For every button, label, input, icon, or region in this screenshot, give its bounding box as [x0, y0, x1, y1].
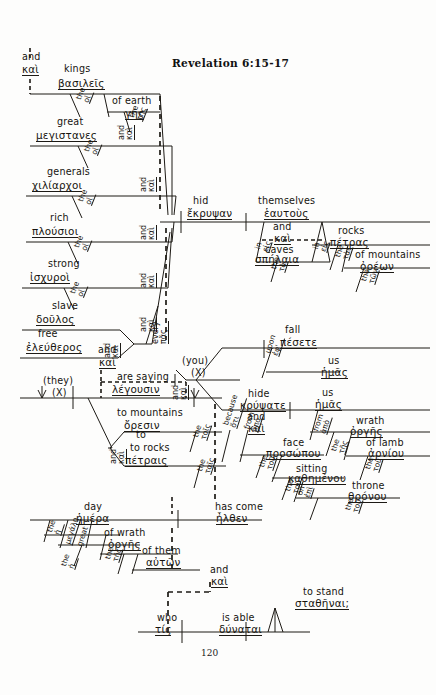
rocks-preposition: in εἰς — [312, 237, 331, 253]
mountains-gen-en: of mountains — [355, 250, 420, 260]
day-article: the ἡ — [46, 519, 65, 536]
slave-en: slave — [52, 301, 78, 311]
verb-isable-en: is able — [222, 613, 255, 623]
of-them-en: of them — [142, 546, 181, 556]
subject-who-el: τίς — [155, 624, 171, 636]
page-number: 120 — [201, 648, 218, 658]
generals-article: the οἱ — [77, 188, 97, 206]
verb-isable-el: δύναται — [219, 624, 262, 636]
of-wrath-en: of wrath — [104, 528, 145, 538]
verb-fall-el: πέσετε — [280, 337, 317, 349]
verb-fall-en: fall — [285, 325, 300, 335]
conj-series-1: and καὶ — [118, 125, 135, 140]
on-throne-preposition: on ἐπὶ — [296, 483, 315, 499]
us-2-en: us — [322, 388, 333, 398]
conj-caves-en: and — [273, 222, 292, 232]
us-1-en: us — [328, 356, 339, 366]
subject-they-en: (they) — [43, 376, 73, 386]
day-great-article: the ἡ — [60, 553, 79, 570]
to-mountains-en: to mountains — [117, 408, 183, 418]
subject-who-en: who — [157, 613, 177, 623]
generals-el: χιλίαρχοι — [32, 180, 82, 192]
great-article: the οἱ — [83, 138, 103, 156]
verb-hascome-en: has come — [215, 502, 263, 512]
us-2-el: ἡμᾶς — [315, 399, 342, 411]
free-el: ἐλεύθερος — [26, 342, 82, 354]
subject-they-ellipsis: (X) — [52, 388, 67, 398]
day-el: ἡμέρα — [76, 513, 109, 525]
conj-to-rocks: and καὶ — [110, 449, 127, 464]
verb-saying-en: are saying — [117, 372, 169, 382]
of-them-el: αὐτῶν — [146, 557, 181, 569]
great-en: great — [57, 117, 83, 127]
strong-article: the οἱ — [69, 280, 89, 298]
conj-series-4: and καὶ — [140, 273, 157, 288]
generals-en: generals — [47, 167, 90, 177]
object-themselves-en: themselves — [258, 196, 315, 206]
conj-saying-en: and — [98, 345, 117, 355]
wrath-article: the τῆς — [330, 437, 350, 455]
subject-you-en: (you) — [182, 356, 208, 366]
us-1-el: ἡμᾶς — [321, 367, 348, 379]
rich-el: πλούσιοι — [32, 226, 78, 238]
to-rocks-article: the ταῖς — [196, 454, 217, 475]
infinitive-tostand-el: σταθῆναι; — [295, 598, 349, 610]
verb-hascome-el: ἦλθεν — [216, 513, 248, 525]
page-title: Revelation 6:15-17 — [172, 57, 289, 69]
diagram-page: Revelation 6:15-17 — [0, 0, 436, 695]
slave-el: δοῦλος — [36, 314, 75, 326]
conj-series-5: and καὶ — [140, 317, 157, 332]
strong-el: ἰσχυροὶ — [30, 272, 70, 284]
conj-top-el: καὶ — [22, 64, 39, 76]
verb-hide-en: hide — [248, 389, 270, 399]
subject-you-ellipsis: (X) — [191, 368, 206, 378]
conj-fall: and καὶ — [172, 385, 189, 400]
infinitive-tostand-en: to stand — [303, 587, 344, 597]
rocks-en: rocks — [338, 226, 364, 236]
strong-en: strong — [48, 259, 80, 269]
caves-preposition: in εἰς — [254, 237, 273, 253]
conj-series-3: and καὶ — [140, 225, 157, 240]
verb-hid-el: ἔκρυψαν — [187, 208, 232, 220]
rich-article: the οἱ — [73, 234, 93, 252]
to-mountains-article: the τοῖς — [192, 421, 212, 441]
conj-bottom-en: and — [210, 565, 229, 575]
verb-hid-en: hid — [193, 196, 208, 206]
to-rocks-en: to rocks — [130, 443, 170, 453]
kings-en: kings — [64, 64, 90, 74]
conj-series-2: and καὶ — [140, 177, 157, 192]
free-en: free — [38, 329, 58, 339]
day-en: day — [84, 502, 102, 512]
from-wrath-preposition: from ἀπὸ — [312, 413, 333, 435]
to-rocks-el: πέτραις — [125, 455, 168, 467]
object-themselves-el: ἑαυτοὺς — [264, 208, 309, 220]
conj-saying-el: καὶ — [99, 357, 116, 369]
conj-top-en: and — [22, 52, 41, 62]
verb-saying-el: λέγουσιν — [112, 384, 160, 396]
to-rocks-prep: to — [136, 430, 146, 440]
day-great-en-stack: great — [76, 526, 89, 547]
rich-en: rich — [50, 213, 69, 223]
upon-preposition: upon ἐφ' — [264, 334, 285, 357]
